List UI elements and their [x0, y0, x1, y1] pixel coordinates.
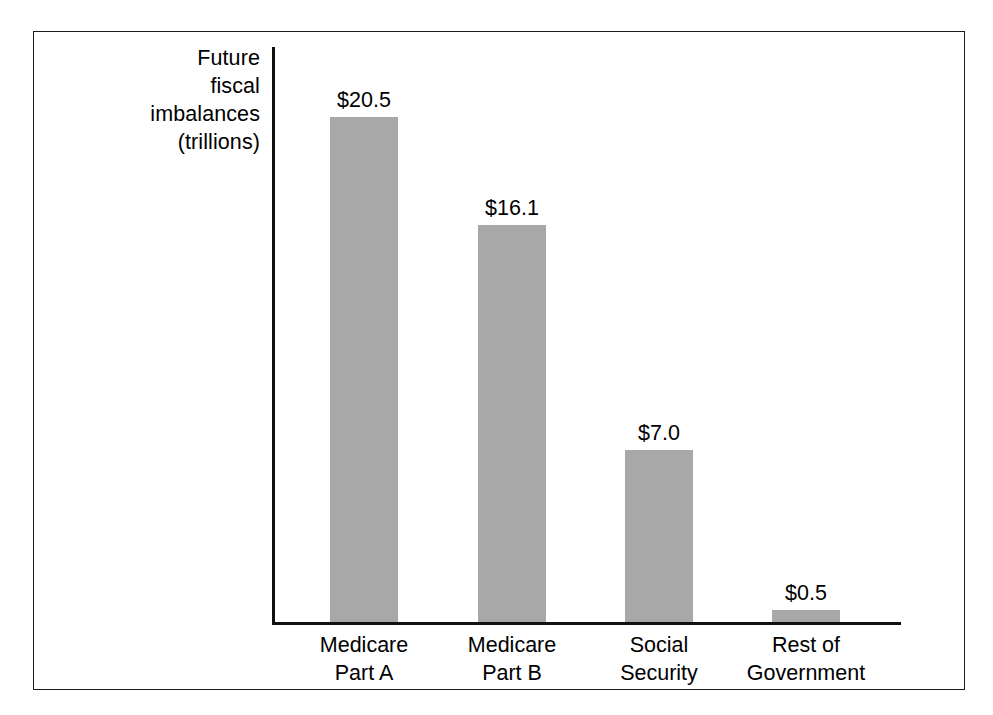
bar-group: $0.5 Rest of Government	[772, 610, 840, 622]
bar[interactable]	[772, 610, 840, 622]
bar-group: $7.0 Social Security	[625, 450, 693, 622]
bar-group: $20.5 Medicare Part A	[330, 117, 398, 622]
bar-category-label: Medicare Part A	[284, 622, 444, 687]
bar-group: $16.1 Medicare Part B	[478, 225, 546, 622]
bar-value-label: $20.5	[290, 88, 438, 112]
bar[interactable]	[478, 225, 546, 622]
bar-value-label: $0.5	[732, 581, 880, 605]
chart-figure: Future fiscal imbalances (trillions) $20…	[0, 0, 993, 715]
bar-category-label: Medicare Part B	[432, 622, 592, 687]
bar[interactable]	[625, 450, 693, 622]
bar-value-label: $16.1	[438, 196, 586, 220]
bar-category-label: Rest of Government	[726, 622, 886, 687]
y-axis-label: Future fiscal imbalances (trillions)	[78, 44, 260, 156]
bar[interactable]	[330, 117, 398, 622]
bar-category-label: Social Security	[579, 622, 739, 687]
bar-value-label: $7.0	[585, 421, 733, 445]
y-axis-line	[272, 47, 275, 625]
